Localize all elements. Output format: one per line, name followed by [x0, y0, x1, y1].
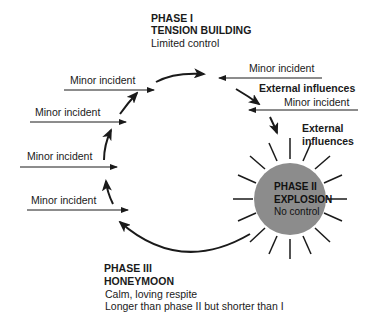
phase2-subtitle: EXPLOSION [274, 194, 332, 207]
arc-left-lower [106, 181, 113, 204]
left-input-label-4: Minor incident [31, 194, 96, 207]
arc-top [156, 74, 204, 82]
arc-left-middle [104, 130, 111, 160]
arc-left-upper [120, 93, 137, 114]
left-input-label-3: Minor incident [27, 150, 92, 163]
phase1-description: Limited control [151, 37, 219, 50]
phase3-subtitle: HONEYMOON [104, 275, 174, 288]
right-minor-incident-1: Minor incident [249, 62, 314, 75]
phase3-description-2: Longer than phase II but shorter than I [105, 300, 284, 312]
left-input-label-2: Minor incident [35, 106, 100, 119]
arc-right-lower [270, 117, 277, 133]
right-external-influences-1: External influences [259, 82, 355, 95]
phase2-description: No control [274, 206, 332, 219]
right-external-influences-2a: External [302, 122, 343, 135]
left-input-label-1: Minor incident [70, 74, 135, 87]
right-external-influences-2b: influences [302, 135, 354, 148]
arc-right-upper [236, 89, 259, 104]
phase2-title: PHASE II [274, 181, 332, 194]
phase2-label: PHASE II EXPLOSION No control [274, 181, 332, 219]
cycle-arrows [104, 74, 277, 252]
right-minor-incident-2: Minor incident [284, 96, 349, 109]
phase3-title: PHASE III [104, 262, 152, 275]
arc-explosion-to-honeymoon [120, 222, 250, 252]
phase1-subtitle: TENSION BUILDING [151, 24, 251, 37]
